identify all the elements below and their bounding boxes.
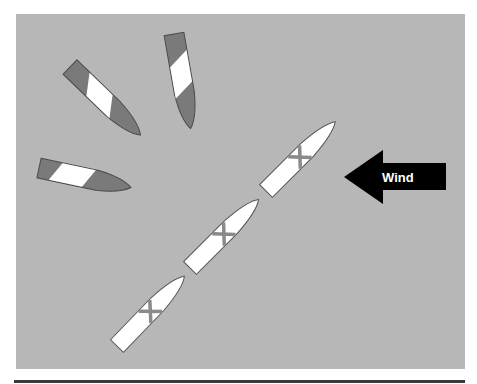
bottom-rule	[14, 380, 465, 383]
boat-3	[37, 158, 133, 197]
boat-6	[111, 270, 191, 352]
wind-arrow: Wind	[344, 150, 446, 204]
boat-4	[260, 115, 342, 197]
wind-label: Wind	[382, 170, 414, 185]
boat-5	[184, 193, 265, 274]
boat-1	[63, 60, 147, 142]
sailing-diagram: Wind	[0, 0, 477, 384]
boat-2	[164, 32, 200, 130]
